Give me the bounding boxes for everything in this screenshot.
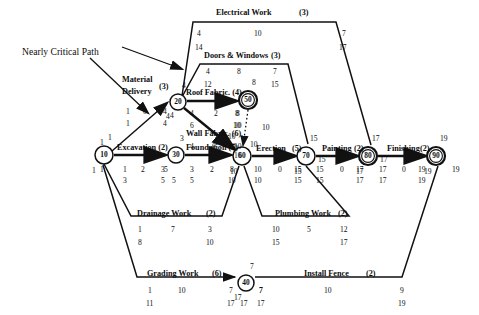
text-grad-ls: 11 (146, 300, 153, 308)
edge-dummy-activity (243, 110, 248, 146)
text-matdel-es: 1 (126, 108, 130, 116)
callout-arrow-upper (122, 47, 182, 69)
node-label-80: 80 (356, 152, 380, 159)
text-n80-right: 17 (380, 156, 388, 164)
text-fence-name: Install Fence (304, 270, 349, 278)
text-doors-name: Doors & Windows (204, 52, 268, 60)
text-fin-lf: 19 (418, 177, 426, 185)
text-doors-es: 4 (206, 68, 210, 76)
text-drain-dur: (2) (206, 210, 216, 218)
text-n60-above1: 10 (228, 133, 236, 141)
text-matdel-name1: Material (122, 76, 152, 84)
node-label-50: 50 (236, 96, 260, 103)
node-early-time-80: 17 (372, 135, 380, 143)
edge-install-fence (255, 166, 438, 277)
text-callout-text: Nearly Critical Path (22, 47, 99, 57)
callout-arrow-lower (90, 58, 148, 113)
text-n20-dummy: 4 (170, 112, 174, 120)
text-n30-left-ef: 5 (172, 177, 176, 185)
text-matdel-float: 0 (143, 108, 147, 116)
text-fin-name: Finishing (387, 145, 420, 153)
text-paint-es: 15 (316, 166, 324, 174)
cpm-network-diagram: 114435717810151517171919Nearly Critical … (0, 0, 479, 315)
text-plumb-ef: 12 (340, 226, 348, 234)
node-early-time-30: 3 (180, 135, 184, 143)
text-n50-right: 10 (262, 124, 270, 132)
text-electrical-lf: 17 (339, 44, 347, 52)
text-paint-ef: 17 (356, 166, 364, 174)
text-grad-dur: (6) (212, 270, 222, 278)
text-matdel-ls: 1 (126, 120, 130, 128)
text-erect-lf: 15 (294, 177, 302, 185)
text-found-ef: 8 (230, 166, 234, 174)
text-doors-lf: 15 (271, 81, 279, 89)
text-n40-right: 7 (259, 287, 263, 295)
text-electrical-d: 10 (254, 30, 262, 38)
text-grad-lf: 17 (227, 300, 235, 308)
text-found-ls: 5 (190, 177, 194, 185)
text-exc-d2: 3 (123, 177, 127, 185)
text-drain-name: Drainage Work (137, 210, 191, 218)
text-found-float: 2 (210, 166, 214, 174)
text-roof-float: 2 (214, 110, 218, 118)
text-drain-d: 7 (171, 226, 175, 234)
text-matdel-name2: Delivery (122, 88, 152, 96)
text-paint-lf: 17 (356, 177, 364, 185)
text-paint-float: 0 (340, 166, 344, 174)
text-drain-lf: 10 (206, 239, 214, 247)
text-paint-ls: 15 (316, 177, 324, 185)
text-fence-ls: 17 (257, 300, 265, 308)
text-n50-below2: 10 (233, 122, 241, 130)
node-label-40: 40 (234, 279, 258, 286)
text-fin-float: 0 (402, 166, 406, 174)
text-plumb-lf: 17 (340, 239, 348, 247)
text-erect-es: 10 (254, 166, 262, 174)
text-paint-name: Painting (322, 145, 352, 153)
text-grad-es: 1 (148, 287, 152, 295)
text-electrical-ls: 14 (195, 44, 203, 52)
text-fence-d: 10 (324, 287, 332, 295)
text-doors-d: 8 (237, 68, 241, 76)
node-label-90: 90 (424, 152, 448, 159)
text-erect-name: Erection (256, 145, 286, 153)
text-plumb-d: 5 (307, 226, 311, 234)
node-early-time-10: 1 (108, 134, 112, 142)
node-early-time-50: 8 (252, 79, 256, 87)
text-electrical-dur: (3) (299, 9, 309, 17)
text-grad-d: 10 (178, 287, 186, 295)
text-plumb-dur: (2) (338, 210, 348, 218)
text-matdel-lf: 4 (163, 120, 167, 128)
text-n70-right: 15 (318, 156, 326, 164)
text-plumb-es: 10 (272, 226, 280, 234)
text-drain-ls: 8 (138, 239, 142, 247)
text-exc-ef: 3 (161, 166, 165, 174)
text-erect-float: 0 (278, 166, 282, 174)
text-exc-name: Excavation (2) (117, 144, 168, 152)
text-found-lf: 10 (228, 177, 236, 185)
node-early-time-70: 15 (310, 135, 318, 143)
node-label-60: 60 (230, 152, 254, 159)
text-exc-ls: 1 (100, 166, 104, 174)
text-plumb-name: Plumbing Work (275, 210, 331, 218)
text-exc-left: 1 (100, 139, 104, 147)
node-early-time-90: 19 (440, 135, 448, 143)
text-fin-ls: 17 (379, 177, 387, 185)
text-electrical-es: 4 (197, 30, 201, 38)
text-exc-lf: 5 (161, 177, 165, 185)
text-n60-above2: 10 (228, 143, 236, 151)
text-erect-ef: 15 (294, 166, 302, 174)
node-early-time-40: 7 (250, 263, 254, 271)
node-label-20: 20 (166, 98, 190, 105)
text-n90-right: 19 (452, 166, 460, 174)
node-label-70: 70 (294, 152, 318, 159)
text-grad-ef: 7 (229, 287, 233, 295)
text-drain-ef: 3 (208, 226, 212, 234)
text-matdel-dur: (3) (159, 83, 169, 91)
node-label-30: 30 (164, 151, 188, 158)
node-late-time-10: 1 (92, 167, 96, 175)
text-matdel-ef: 4 (163, 108, 167, 116)
text-roof-es: 4 (190, 110, 194, 118)
text-fence-lf: 19 (398, 300, 406, 308)
text-erect-ls: 10 (254, 177, 262, 185)
text-exc-es: 1 (123, 166, 127, 174)
